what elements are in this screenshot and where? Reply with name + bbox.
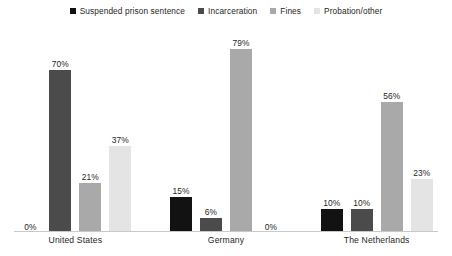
legend-swatch-icon bbox=[270, 8, 276, 14]
grouped-bar-chart: Suspended prison sentence Incarceration … bbox=[0, 0, 452, 256]
bar-group-bars: 10% 10% 56% 23% bbox=[301, 24, 452, 232]
plot-area: 0% 70% 21% 37% bbox=[0, 24, 452, 232]
bar-slot[interactable]: 79% bbox=[230, 24, 252, 232]
legend-item-label: Incarceration bbox=[208, 7, 257, 16]
chart-legend: Suspended prison sentence Incarceration … bbox=[0, 4, 452, 18]
bar-group-bars: 15% 6% 79% 0% bbox=[151, 24, 302, 232]
legend-swatch-icon bbox=[70, 8, 76, 14]
bar-value-label: 6% bbox=[205, 207, 217, 217]
legend-item-label: Probation/other bbox=[324, 7, 382, 16]
bar-rect bbox=[170, 197, 192, 232]
bar-slot[interactable]: 23% bbox=[411, 24, 433, 232]
category-label-the-netherlands: The Netherlands bbox=[301, 234, 452, 248]
bar-group-united-states: 0% 70% 21% 37% bbox=[0, 24, 151, 232]
bar-value-label: 15% bbox=[172, 186, 189, 196]
bar-rect bbox=[49, 70, 71, 232]
bar-rect bbox=[200, 218, 222, 232]
bar-slot[interactable]: 6% bbox=[200, 24, 222, 232]
bar-slot[interactable]: 56% bbox=[381, 24, 403, 232]
bar-slot[interactable]: 37% bbox=[109, 24, 131, 232]
bar-slot[interactable]: 0% bbox=[260, 24, 282, 232]
bar-rect bbox=[411, 179, 433, 232]
bar-group-germany: 15% 6% 79% 0% bbox=[151, 24, 302, 232]
x-axis-baseline bbox=[14, 231, 438, 232]
bar-rect bbox=[230, 49, 252, 232]
bar-slot[interactable]: 15% bbox=[170, 24, 192, 232]
legend-item-fines[interactable]: Fines bbox=[270, 7, 301, 16]
bar-slot[interactable]: 10% bbox=[321, 24, 343, 232]
bar-rect bbox=[109, 146, 131, 232]
bar-value-label: 56% bbox=[383, 91, 400, 101]
bar-rect bbox=[321, 209, 343, 232]
bar-value-label: 70% bbox=[52, 59, 69, 69]
category-label-germany: Germany bbox=[151, 234, 302, 248]
bar-value-label: 79% bbox=[232, 38, 249, 48]
bar-group-bars: 0% 70% 21% 37% bbox=[0, 24, 151, 232]
bar-slot[interactable]: 10% bbox=[351, 24, 373, 232]
legend-item-label: Fines bbox=[280, 7, 301, 16]
legend-item-probation-other[interactable]: Probation/other bbox=[314, 7, 382, 16]
bar-groups: 0% 70% 21% 37% bbox=[0, 24, 452, 232]
bar-value-label: 10% bbox=[353, 198, 370, 208]
bar-slot[interactable]: 70% bbox=[49, 24, 71, 232]
bar-rect bbox=[381, 102, 403, 232]
legend-item-incarceration[interactable]: Incarceration bbox=[198, 7, 257, 16]
category-label-united-states: United States bbox=[0, 234, 151, 248]
bar-value-label: 37% bbox=[112, 135, 129, 145]
bar-slot[interactable]: 0% bbox=[19, 24, 41, 232]
legend-item-suspended-prison-sentence[interactable]: Suspended prison sentence bbox=[70, 7, 185, 16]
category-axis-labels: United States Germany The Netherlands bbox=[0, 234, 452, 248]
legend-swatch-icon bbox=[314, 8, 320, 14]
bar-value-label: 21% bbox=[82, 172, 99, 182]
bar-rect bbox=[79, 183, 101, 232]
legend-swatch-icon bbox=[198, 8, 204, 14]
bar-value-label: 10% bbox=[323, 198, 340, 208]
bar-slot[interactable]: 21% bbox=[79, 24, 101, 232]
bar-rect bbox=[351, 209, 373, 232]
bar-group-the-netherlands: 10% 10% 56% 23% bbox=[301, 24, 452, 232]
bar-value-label: 23% bbox=[413, 168, 430, 178]
legend-item-label: Suspended prison sentence bbox=[80, 7, 185, 16]
